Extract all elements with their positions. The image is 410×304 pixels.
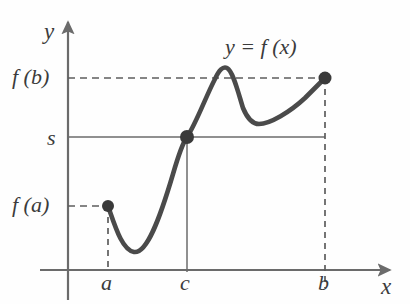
curve-equation-label: y = f (x) [225, 36, 297, 58]
point-a-marker [102, 200, 114, 212]
guide-lines-group [68, 78, 325, 288]
x-tick-label-c: c [180, 272, 190, 294]
y-axis-label: y [44, 20, 54, 43]
x-axis-label: x [381, 275, 391, 298]
x-tick-label-a: a [101, 272, 112, 294]
point-c-marker [180, 130, 194, 144]
marked-points-group [102, 72, 332, 213]
y-tick-label-fa: f (a) [12, 194, 49, 216]
ivt-figure: y x f (b) s f (a) a c b y = f (x) [0, 0, 410, 304]
axes-group [40, 22, 390, 300]
x-tick-label-b: b [318, 272, 329, 294]
y-tick-label-s: s [47, 127, 56, 149]
y-tick-label-fb: f (b) [12, 66, 49, 88]
point-b-marker [319, 72, 332, 85]
function-curve [108, 67, 325, 252]
plot-canvas [0, 0, 410, 304]
